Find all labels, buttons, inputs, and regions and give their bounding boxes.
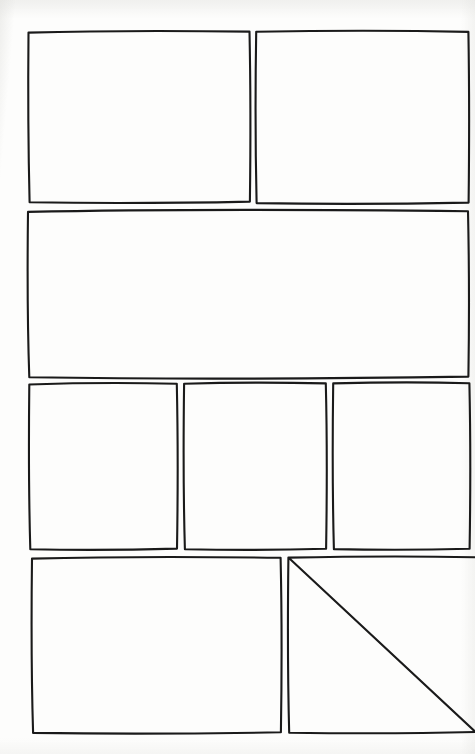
panel-1[interactable] [29, 33, 248, 201]
panel-8[interactable] [290, 560, 475, 731]
panel-6[interactable] [335, 386, 467, 547]
panel-2[interactable] [258, 33, 466, 201]
panel-7[interactable] [34, 560, 279, 731]
panel-5[interactable] [186, 386, 324, 547]
comic-page [0, 0, 475, 754]
panel-4[interactable] [31, 386, 175, 547]
panel-3[interactable] [30, 213, 466, 375]
